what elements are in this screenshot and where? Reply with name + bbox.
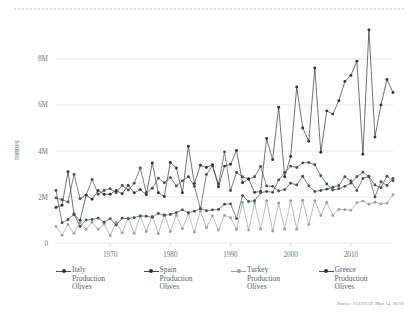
x-axis-tick-marks — [110, 243, 351, 247]
x-tick-label: 1990 — [223, 251, 238, 259]
series-italy — [55, 150, 395, 210]
legend-marker-icon-turkey — [231, 267, 246, 276]
legend-item-greece[interactable]: Greece Production Olives — [319, 266, 407, 292]
legend-marker-icon-spain — [144, 267, 159, 276]
x-tick-label: 1970 — [103, 251, 118, 259]
source-note: Source: FAOSTAT (Mar 14, 2019) — [337, 301, 404, 306]
legend-item-italy[interactable]: Italy Production Olives — [56, 266, 144, 292]
legend-label-spain: Spain Production Olives — [159, 266, 193, 292]
legend-label-turkey: Turkey Production Olives — [246, 266, 280, 292]
legend-label-greece: Greece Production Olives — [334, 266, 368, 292]
x-tick-label: 2010 — [344, 251, 359, 259]
chart-figure: 02M4M6M8M 19701980199020002010 tonnes It… — [0, 0, 418, 335]
y-tick-label: 2M — [38, 194, 49, 202]
series-turkey — [55, 193, 395, 237]
legend-label-italy: Italy Production Olives — [71, 266, 105, 292]
chart-legend: Italy Production Olives Spain Production… — [56, 266, 406, 300]
legend-marker-icon-italy — [56, 267, 71, 276]
y-tick-label: 8M — [38, 55, 49, 63]
y-tick-label: 6M — [38, 101, 49, 109]
legend-item-turkey[interactable]: Turkey Production Olives — [231, 266, 319, 292]
y-axis-tick-labels: 02M4M6M8M — [38, 55, 49, 247]
legend-item-spain[interactable]: Spain Production Olives — [144, 266, 232, 292]
series-spain — [55, 28, 395, 222]
data-series-group — [55, 28, 395, 237]
y-tick-label: 4M — [38, 148, 49, 156]
y-tick-label: 0 — [44, 240, 48, 248]
chart-plot-area: 02M4M6M8M 19701980199020002010 tonnes — [0, 0, 418, 265]
x-tick-label: 2000 — [284, 251, 299, 259]
y-axis-label: tonnes — [12, 140, 21, 160]
x-tick-label: 1980 — [163, 251, 178, 259]
line-chart-svg: 02M4M6M8M 19701980199020002010 tonnes — [0, 0, 418, 265]
legend-marker-icon-greece — [319, 267, 334, 276]
x-axis-tick-labels: 19701980199020002010 — [103, 251, 359, 259]
